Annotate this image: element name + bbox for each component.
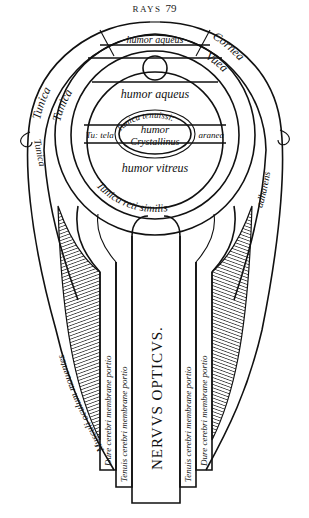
label-dure-left: Dure cerebri membrane portio bbox=[103, 355, 113, 467]
label-tenuis-left: Tenuis cerebri membrane portio bbox=[119, 366, 129, 482]
eye-diagram: Tunica Tunica Cornea Vuea humor aqueus h… bbox=[0, 0, 309, 518]
label-humor-vitreus: humor vitreus bbox=[122, 161, 189, 175]
pupil bbox=[143, 56, 167, 80]
label-tunica-reti-similis: Tunica reti similis bbox=[94, 179, 168, 214]
label-aranea: aranea bbox=[199, 130, 225, 140]
label-tenuis-right: Tenuis cerebri membrane portio bbox=[183, 366, 193, 482]
label-humor-aqueus-top: humor aqueus bbox=[127, 34, 184, 45]
svg-text:Tunica: Tunica bbox=[32, 138, 48, 167]
label-humor-aqueus: humor aqueus bbox=[121, 87, 190, 101]
label-dure-right: Dure cerebri membrane portio bbox=[199, 355, 209, 467]
svg-text:Tunica reti similis: Tunica reti similis bbox=[94, 179, 168, 214]
label-tunica-tela: Tu: tela bbox=[86, 130, 114, 140]
label-nervus-opticus: NERVVS OPTICVS. bbox=[149, 326, 165, 470]
label-humor-crystallinus-2: Crystallinus bbox=[131, 136, 180, 147]
label-humor-crystallinus-1: humor bbox=[141, 123, 170, 135]
label-adharens: adharens bbox=[253, 171, 272, 209]
label-tunica-side: Tunica bbox=[32, 138, 48, 167]
svg-text:adharens: adharens bbox=[253, 171, 272, 209]
